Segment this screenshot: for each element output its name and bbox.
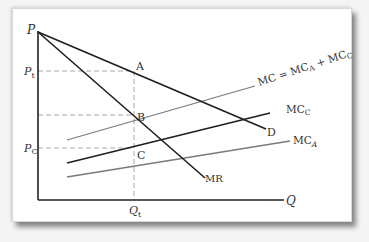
mc-total-label: MC = MCA + MCC [256,46,354,90]
point-c-label: C [137,149,145,162]
y-axis-label: P [26,23,36,37]
pc-label: PC [23,142,38,156]
mr-label: MR [205,173,223,184]
pt-label: Pt [23,65,35,80]
demand-curve [38,32,266,129]
mc-a-curve [67,141,290,177]
demand-label: D [267,126,276,139]
point-b-label: B [137,111,145,124]
mc-c-curve [67,113,270,163]
economics-diagram: P Q Pt PC Qt A B C D MR MC = MCA + MCC M… [0,0,369,242]
point-a-label: A [135,60,145,73]
x-axis-label: Q [286,194,296,208]
mr-curve [38,32,205,178]
mc-a-label: MCA [293,134,318,149]
mc-c-label: MCC [286,103,311,117]
qt-label: Qt [129,204,142,219]
